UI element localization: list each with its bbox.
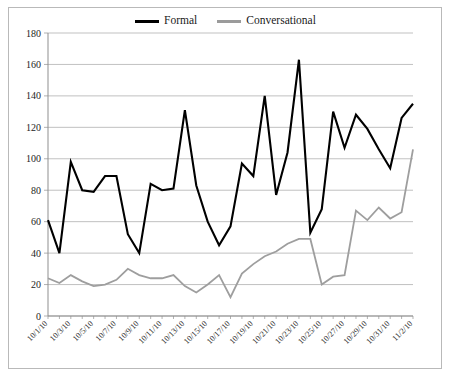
series-line-formal	[48, 60, 413, 253]
x-axis-tick-label: 11/2/10	[391, 319, 415, 343]
x-axis-tick-label: 10/17/10	[205, 319, 232, 346]
y-axis-tick-label: 120	[26, 122, 41, 133]
x-axis-tick-label: 10/3/10	[48, 319, 72, 343]
y-axis-tick-label: 0	[36, 311, 41, 322]
y-axis-tick-label: 80	[31, 185, 41, 196]
y-axis-tick-label: 60	[31, 216, 41, 227]
y-axis-tick-label: 20	[31, 279, 41, 290]
y-axis-tick-label: 40	[31, 248, 41, 259]
x-axis-tick-label: 10/31/10	[365, 319, 392, 346]
x-axis-tick-label: 10/19/10	[228, 319, 255, 346]
x-axis-tick-label: 10/25/10	[296, 319, 323, 346]
x-axis-tick-label: 10/29/10	[342, 319, 369, 346]
y-axis-tick-label: 160	[26, 59, 41, 70]
x-axis-tick-label: 10/1/10	[25, 319, 49, 343]
x-axis-tick-label: 10/21/10	[251, 319, 278, 346]
x-axis-tick-label: 10/5/10	[71, 319, 95, 343]
x-axis-tick-label: 10/13/10	[159, 319, 186, 346]
line-chart: 02040608010012014016018010/1/1010/3/1010…	[0, 0, 451, 381]
y-axis-tick-label: 180	[26, 28, 41, 39]
y-axis-tick-label: 140	[26, 90, 41, 101]
x-axis-tick-label: 10/15/10	[182, 319, 209, 346]
x-axis-tick-label: 10/23/10	[273, 319, 300, 346]
x-axis-tick-label: 10/27/10	[319, 319, 346, 346]
y-axis-tick-label: 100	[26, 153, 41, 164]
x-axis-tick-label: 10/11/10	[137, 319, 164, 346]
plot-area: 02040608010012014016018010/1/1010/3/1010…	[0, 0, 451, 381]
x-axis-tick-label: 10/7/10	[94, 319, 118, 343]
